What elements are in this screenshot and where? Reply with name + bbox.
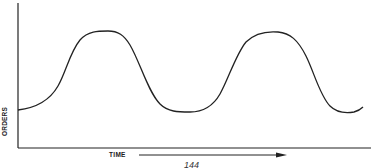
page-number: 144	[184, 160, 199, 168]
time-arrow-head-icon	[276, 153, 287, 158]
orders-curve	[18, 31, 363, 113]
y-axis-label: ORDERS	[1, 116, 11, 136]
x-axis-label: TIME	[109, 151, 126, 158]
orders-over-time-chart	[0, 0, 371, 168]
